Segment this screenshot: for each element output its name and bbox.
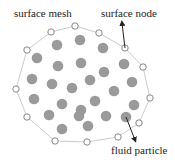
surface-node (52, 138, 58, 144)
fluid-particle (29, 94, 40, 105)
fluid-particle-arrow (126, 117, 135, 140)
fluid-particle (98, 43, 109, 54)
fluid-particle-label: fluid particle (111, 144, 168, 156)
fluid-particle (101, 111, 112, 122)
fluid-particle (57, 99, 68, 110)
fluid-particle (129, 100, 140, 111)
fluid-particle (76, 58, 87, 69)
fluid-particle (127, 77, 138, 88)
fluid-particle (119, 59, 130, 70)
fluid-particle (57, 124, 68, 135)
surface-node (136, 120, 142, 126)
fluid-particle (52, 40, 63, 51)
particle-mesh-diagram (0, 0, 175, 163)
surface-node (96, 30, 102, 36)
surface-node (147, 95, 153, 101)
surface-node (24, 114, 30, 120)
surface-node (140, 64, 146, 70)
surface-node (13, 86, 19, 92)
fluid-particle (90, 96, 101, 107)
fluid-particle (99, 67, 110, 78)
fluid-particle (83, 121, 94, 132)
fluid-particle (109, 86, 120, 97)
fluid-particle (47, 79, 58, 90)
fluid-particle (53, 61, 64, 72)
surface-node (48, 29, 54, 35)
fluid-particle (75, 35, 86, 46)
surface-node (72, 23, 78, 29)
fluid-particle (27, 74, 38, 85)
fluid-particle (85, 75, 96, 86)
surface-node (84, 139, 90, 145)
surface-node-label: surface node (101, 7, 157, 19)
fluid-particle (32, 53, 43, 64)
surface-node (24, 47, 30, 53)
surface-node (115, 134, 121, 140)
fluid-particle (44, 110, 55, 121)
surface-mesh-label: surface mesh (14, 7, 72, 19)
fluid-particle (67, 83, 78, 94)
surface-node-arrow (122, 23, 125, 48)
fluid-particle (74, 111, 85, 122)
